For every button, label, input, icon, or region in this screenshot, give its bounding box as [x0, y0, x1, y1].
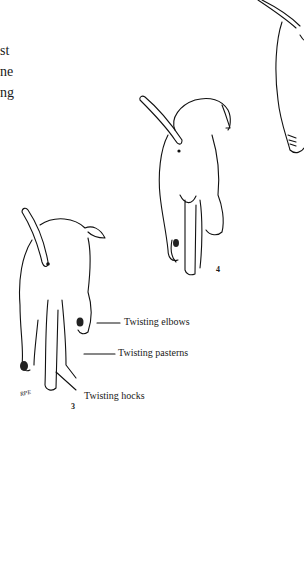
label-twisting-hocks: Twisting hocks [84, 390, 145, 401]
figure-number-3: 3 [71, 402, 75, 411]
dog-figure-partial [258, 0, 304, 153]
label-twisting-pasterns: Twisting pasterns [118, 347, 188, 358]
dog-illustrations [0, 0, 304, 581]
dog-figure-4 [140, 96, 231, 275]
label-twisting-elbows: Twisting elbows [124, 316, 190, 327]
dog-figure-3 [20, 208, 106, 390]
figure-number-4: 4 [216, 265, 220, 274]
